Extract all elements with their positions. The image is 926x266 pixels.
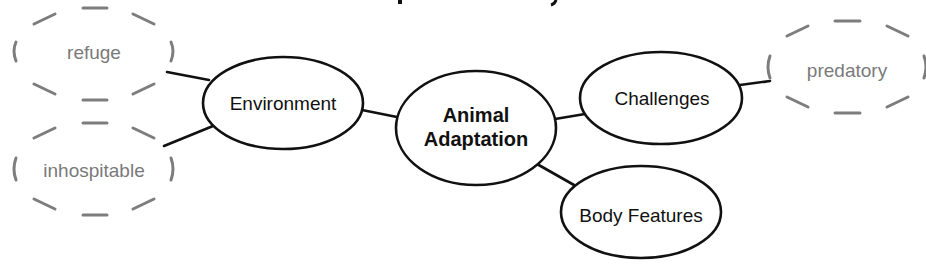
edge-center-body-features (537, 164, 574, 185)
node-environment[interactable]: Environment (203, 57, 363, 149)
node-label-challenges: Challenges (614, 88, 709, 109)
node-label-environment: Environment (230, 93, 337, 114)
edge-inhospitable-environment (164, 126, 213, 146)
node-label-body-features: Body Features (579, 205, 703, 226)
vocab-oval-predatory[interactable]: predatory (768, 21, 926, 113)
edge-environment-center (362, 110, 397, 117)
vocab-inhospitable: inhospitable (43, 160, 144, 181)
node-center-animal-adaptation[interactable]: Animal Adaptation (396, 71, 556, 185)
vocab-oval-refuge[interactable]: refuge (14, 8, 173, 100)
clipped-title-fragment (398, 0, 556, 5)
center-label-line2: Adaptation (424, 128, 528, 150)
center-label-line1: Animal (443, 104, 510, 126)
vocab-refuge: refuge (67, 42, 121, 63)
concept-map: refuge inhospitable predatory (0, 0, 926, 266)
vocab-oval-inhospitable[interactable]: inhospitable (14, 123, 173, 215)
node-body-features[interactable]: Body Features (561, 166, 721, 258)
vocab-predatory: predatory (807, 60, 888, 81)
edge-challenges-predatory (740, 81, 770, 85)
edge-center-challenges (555, 114, 585, 119)
node-challenges[interactable]: Challenges (580, 52, 742, 144)
edge-refuge-environment (167, 72, 209, 80)
